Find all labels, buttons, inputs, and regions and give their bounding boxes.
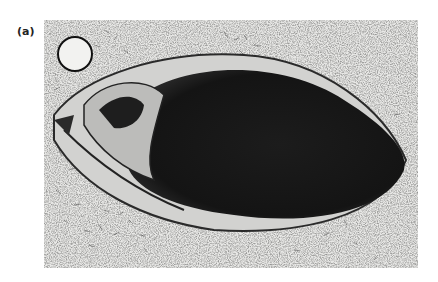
- micrograph: [44, 20, 418, 268]
- specimen-illustration: [44, 20, 418, 268]
- circle-marker: [58, 37, 92, 71]
- panel-label: (a): [17, 25, 34, 38]
